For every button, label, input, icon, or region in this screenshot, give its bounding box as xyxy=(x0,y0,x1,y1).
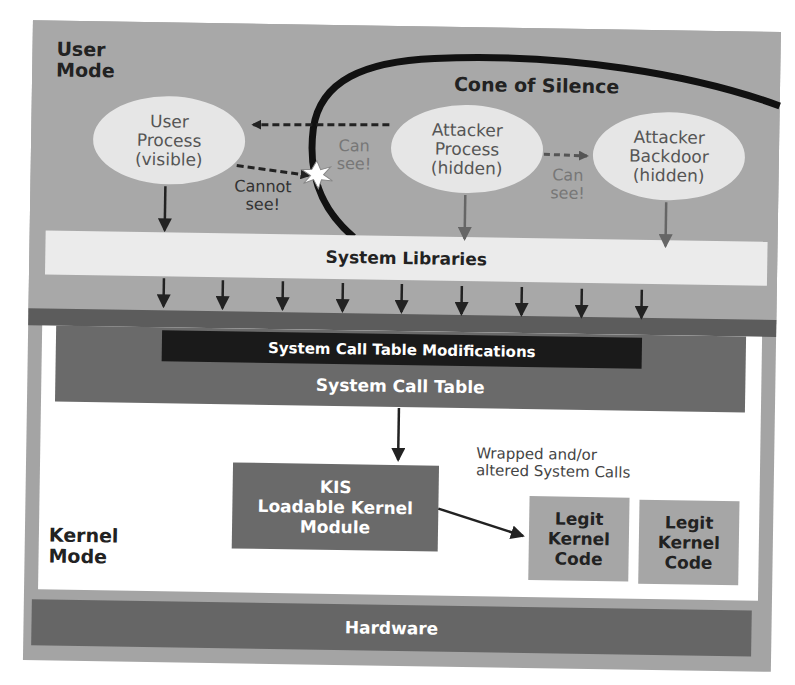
can-see-label-1: Can see! xyxy=(337,137,372,174)
cannot-see-label: Cannot see! xyxy=(234,177,292,214)
can-see-label-2: Can see! xyxy=(550,166,585,203)
user-mode-label: User Mode xyxy=(56,39,115,82)
cone-of-silence-title: Cone of Silence xyxy=(454,73,620,98)
kis-loadable-kernel-module-box: KIS Loadable Kernel Module xyxy=(232,462,439,551)
rootkit-architecture-diagram: User Mode Cone of Silence User Process (… xyxy=(0,0,795,685)
kernel-mode-label: Kernel Mode xyxy=(48,525,118,568)
wrapped-system-calls-label: Wrapped and/or altered System Calls xyxy=(476,445,631,481)
legit-kernel-code-box-2: Legit Kernel Code xyxy=(638,500,739,586)
legit-kernel-code-box-1: Legit Kernel Code xyxy=(528,496,629,582)
